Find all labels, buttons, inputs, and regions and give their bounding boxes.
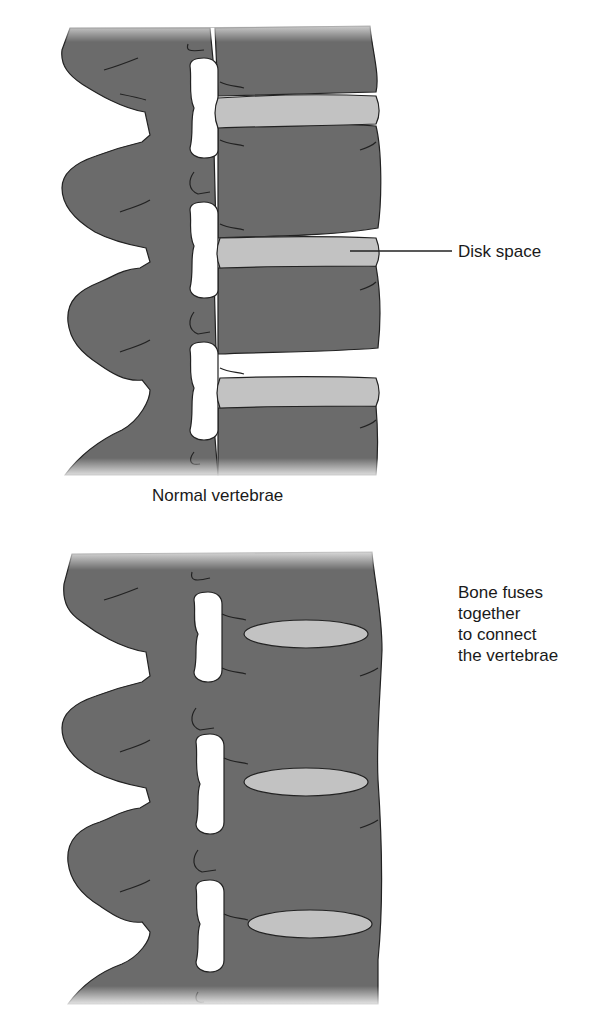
fusion-label-line-3: to connect — [458, 624, 558, 645]
normal-vertebrae-panel: Disk space Normal vertebrae — [0, 0, 616, 520]
normal-vertebrae-caption: Normal vertebrae — [152, 486, 283, 506]
disk-remnant-2 — [244, 768, 368, 796]
disk-space-label: Disk space — [458, 241, 541, 262]
normal-spine-illustration — [0, 0, 616, 480]
fusion-description-label: Bone fuses together to connect the verte… — [458, 582, 558, 666]
disk-remnant-1 — [244, 620, 368, 648]
fusion-label-line-4: the vertebrae — [458, 645, 558, 666]
fused-vertebrae-panel: Bone fuses together to connect the verte… — [0, 540, 616, 1022]
fusion-label-line-1: Bone fuses — [458, 582, 558, 603]
disk-3 — [217, 377, 379, 409]
disk-remnant-3 — [248, 910, 372, 938]
fusion-label-line-2: together — [458, 603, 558, 624]
disk-2 — [217, 237, 379, 269]
disk-1 — [215, 95, 379, 128]
